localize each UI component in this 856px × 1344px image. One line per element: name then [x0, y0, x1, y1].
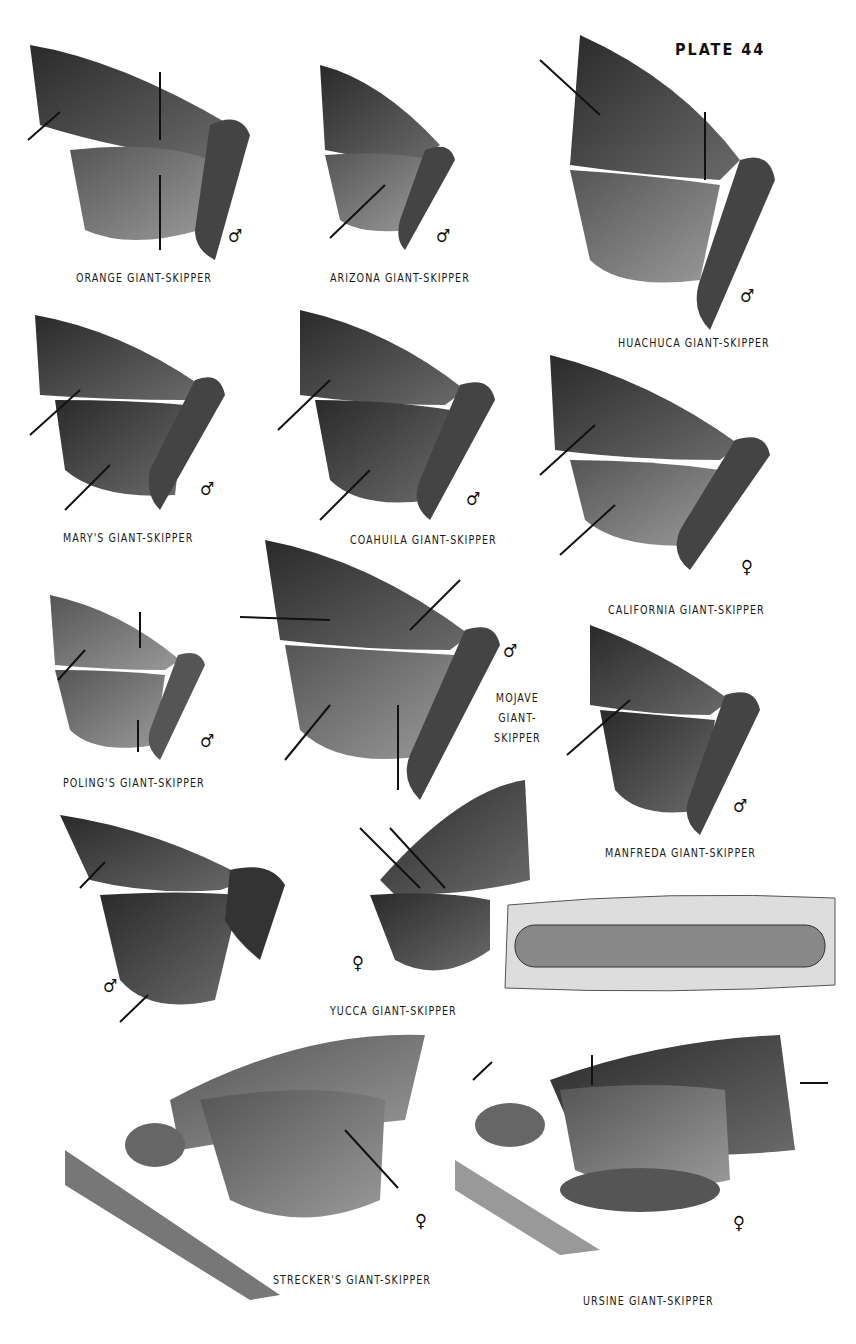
species-label-ursine: URSINE GIANT-SKIPPER: [583, 1293, 714, 1308]
male-symbol-icon: ♂: [436, 225, 451, 246]
mojave-giant-skipper-illustration: [240, 540, 500, 800]
species-label-mojave: MOJAVE GIANT- SKIPPER: [494, 688, 541, 748]
male-symbol-icon: ♂: [466, 488, 481, 509]
male-symbol-icon: ♂: [103, 975, 118, 996]
manfreda-giant-skipper-illustration: [567, 625, 760, 835]
streckers-giant-skipper-illustration: [65, 1035, 425, 1300]
coahuila-giant-skipper-illustration: [278, 310, 495, 520]
orange-giant-skipper-illustration: [28, 45, 250, 260]
species-label-california: CALIFORNIA GIANT-SKIPPER: [608, 602, 765, 617]
species-label-streckers: STRECKER'S GIANT-SKIPPER: [273, 1272, 431, 1287]
mojave-line-2: GIANT-: [494, 708, 541, 728]
yucca-giant-skipper-male-illustration: [60, 815, 285, 1022]
female-symbol-icon: ♀: [352, 952, 364, 973]
male-symbol-icon: ♂: [740, 285, 755, 306]
species-label-manfreda: MANFREDA GIANT-SKIPPER: [605, 845, 756, 860]
arizona-giant-skipper-illustration: [320, 65, 455, 250]
female-symbol-icon: ♀: [415, 1210, 427, 1231]
yucca-larva-illustration: [505, 895, 835, 991]
yucca-giant-skipper-female-illustration: [360, 780, 530, 970]
male-symbol-icon: ♂: [733, 795, 748, 816]
male-symbol-icon: ♂: [200, 730, 215, 751]
marys-giant-skipper-illustration: [30, 315, 225, 510]
female-symbol-icon: ♀: [741, 556, 753, 577]
male-symbol-icon: ♂: [200, 478, 215, 499]
species-label-polings: POLING'S GIANT-SKIPPER: [63, 775, 205, 790]
female-symbol-icon: ♀: [733, 1212, 745, 1233]
male-symbol-icon: ♂: [228, 225, 243, 246]
male-symbol-icon: ♂: [503, 640, 518, 661]
species-label-yucca: YUCCA GIANT-SKIPPER: [330, 1003, 457, 1018]
ursine-giant-skipper-illustration: [455, 1035, 828, 1255]
species-label-coahuila: COAHUILA GIANT-SKIPPER: [350, 532, 497, 547]
species-label-orange: ORANGE GIANT-SKIPPER: [76, 270, 212, 285]
species-label-arizona: ARIZONA GIANT-SKIPPER: [330, 270, 470, 285]
mojave-line-3: SKIPPER: [494, 728, 541, 748]
mojave-line-1: MOJAVE: [494, 688, 541, 708]
species-label-marys: MARY'S GIANT-SKIPPER: [63, 530, 193, 545]
california-giant-skipper-illustration: [540, 355, 770, 570]
plate-illustrations: [0, 0, 856, 1344]
polings-giant-skipper-illustration: [50, 595, 205, 760]
species-label-huachuca: HUACHUCA GIANT-SKIPPER: [618, 335, 770, 350]
